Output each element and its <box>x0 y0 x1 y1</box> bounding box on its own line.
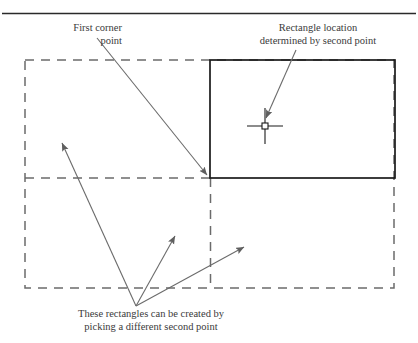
rectangle-command-diagram: First corner point Rectangle location de… <box>0 0 418 343</box>
caption-label-line2: picking a different second point <box>36 321 266 334</box>
rectangle-location-label-line1: Rectangle location <box>228 22 408 35</box>
diagram-canvas <box>0 0 418 343</box>
caption-label-line1: These rectangles can be created by <box>36 308 266 321</box>
caption-arrow-left <box>62 143 136 306</box>
first-corner-label-line2: point <box>10 35 122 48</box>
first-corner-label: First corner point <box>10 22 122 47</box>
first-corner-label-line1: First corner <box>10 22 122 35</box>
first-corner-arrow <box>97 38 207 175</box>
solid-rectangle <box>210 60 395 178</box>
rectangle-location-label-line2: determined by second point <box>228 35 408 48</box>
crosshair-cursor-icon <box>247 108 283 144</box>
caption-label: These rectangles can be created by picki… <box>36 308 266 333</box>
rectangle-location-label: Rectangle location determined by second … <box>228 22 408 47</box>
